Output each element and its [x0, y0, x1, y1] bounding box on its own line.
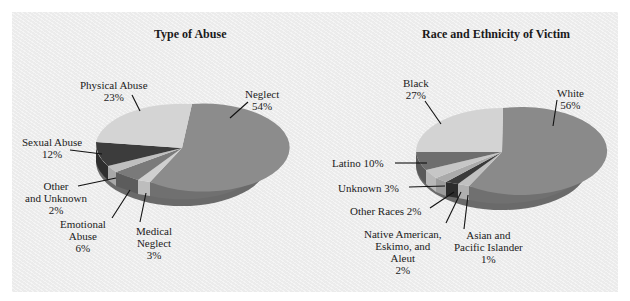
label-sexual-abuse: Sexual Abuse 12%: [22, 136, 82, 160]
label-neglect: Neglect 54%: [245, 88, 279, 112]
slice-physical-abuse: [96, 104, 192, 148]
label-unknown: Unknown 3%: [338, 182, 399, 194]
left-pie: [96, 104, 290, 206]
label-asian-pacific: Asian and Pacific Islander 1%: [454, 229, 523, 265]
right-chart-title: Race and Ethnicity of Victim: [422, 27, 570, 42]
slice-black: [416, 108, 503, 152]
label-other-unknown: Other and Unknown 2%: [25, 180, 87, 216]
label-medical-neglect: Medical Neglect 3%: [136, 225, 172, 261]
left-chart-title: Type of Abuse: [154, 27, 226, 42]
label-emotional-abuse: Emotional Abuse 6%: [60, 218, 106, 254]
label-black: Black 27%: [403, 77, 429, 101]
label-native-american: Native American, Eskimo, and Aleut 2%: [364, 228, 442, 276]
label-latino: Latino 10%: [332, 157, 384, 169]
right-pie: [416, 107, 607, 210]
label-physical-abuse: Physical Abuse 23%: [80, 79, 148, 103]
label-other-races: Other Races 2%: [350, 205, 421, 217]
label-white: White 56%: [557, 87, 584, 111]
pie-charts-graphic: [0, 0, 630, 301]
